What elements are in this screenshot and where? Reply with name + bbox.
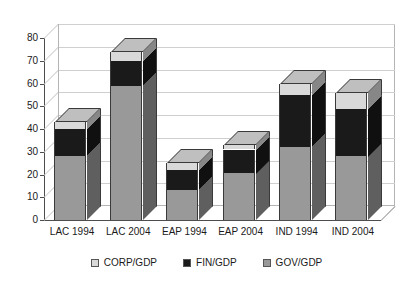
x-axis-label-ind-2004: IND 2004 — [325, 226, 381, 238]
floor-right-depth-edge — [381, 206, 396, 221]
legend-item-fin: FIN/GDP — [183, 258, 237, 268]
x-axis-label-ind-1994: IND 1994 — [269, 226, 325, 238]
legend-swatch-icon — [91, 259, 99, 267]
y-tick-label-30: 30 — [12, 147, 38, 157]
bar-segment-corp — [223, 145, 255, 150]
bar-group-ind-2004 — [335, 24, 381, 220]
bar-segment-fin — [223, 150, 255, 174]
bar-segment-corp — [335, 93, 367, 109]
bar-group-eap-2004 — [223, 24, 269, 220]
bar-series-layer — [44, 24, 381, 220]
bar-group-eap-1994 — [166, 24, 212, 220]
legend-item-corp: CORP/GDP — [91, 258, 157, 268]
bar-segment-corp — [54, 122, 86, 129]
x-axis-label-lac-1994: LAC 1994 — [44, 226, 100, 238]
bar-segment-gov — [335, 156, 367, 220]
bar-segment-fin — [54, 129, 86, 156]
bar-segment-gov — [279, 147, 311, 220]
bar-segment-fin — [110, 61, 142, 86]
legend-label: GOV/GDP — [276, 258, 323, 268]
bar-segment-fin — [166, 170, 198, 190]
legend-swatch-icon — [183, 259, 191, 267]
bar-segment-side-face — [143, 72, 157, 220]
legend-item-gov: GOV/GDP — [263, 258, 323, 268]
bar-segment-side-face — [312, 133, 326, 220]
y-tick-label-0: 0 — [12, 215, 38, 225]
bar-group-lac-2004 — [110, 24, 156, 220]
legend-label: CORP/GDP — [104, 258, 157, 268]
bar-segment-fin — [335, 109, 367, 157]
x-axis-labels: LAC 1994LAC 2004EAP 1994EAP 2004IND 1994… — [0, 226, 413, 244]
x-axis-label-eap-2004: EAP 2004 — [213, 226, 269, 238]
bar-segment-corp — [110, 52, 142, 61]
x-axis-label-eap-1994: EAP 1994 — [156, 226, 212, 238]
x-axis-label-lac-2004: LAC 2004 — [100, 226, 156, 238]
stacked-column-chart: 80706050403020100 LAC 1994LAC 2004EAP 19… — [0, 0, 413, 282]
y-tick-label-40: 40 — [12, 124, 38, 134]
bar-segment-corp — [279, 84, 311, 95]
bar-segment-gov — [166, 190, 198, 220]
bar-group-ind-1994 — [279, 24, 325, 220]
x-axis-line — [44, 220, 381, 221]
y-tick-label-60: 60 — [12, 79, 38, 89]
bar-segment-gov — [223, 173, 255, 220]
y-tick-label-10: 10 — [12, 192, 38, 202]
bar-segment-fin — [279, 95, 311, 147]
y-tick-mark-0 — [40, 220, 44, 221]
chart-legend: CORP/GDPFIN/GDPGOV/GDP — [0, 258, 413, 268]
y-tick-label-50: 50 — [12, 101, 38, 111]
y-tick-label-80: 80 — [12, 33, 38, 43]
bar-segment-corp — [166, 163, 198, 170]
bar-group-lac-1994 — [54, 24, 100, 220]
bar-segment-gov — [54, 156, 86, 220]
legend-label: FIN/GDP — [196, 258, 237, 268]
legend-swatch-icon — [263, 259, 271, 267]
bar-segment-gov — [110, 86, 142, 220]
y-tick-label-20: 20 — [12, 170, 38, 180]
y-tick-label-70: 70 — [12, 56, 38, 66]
